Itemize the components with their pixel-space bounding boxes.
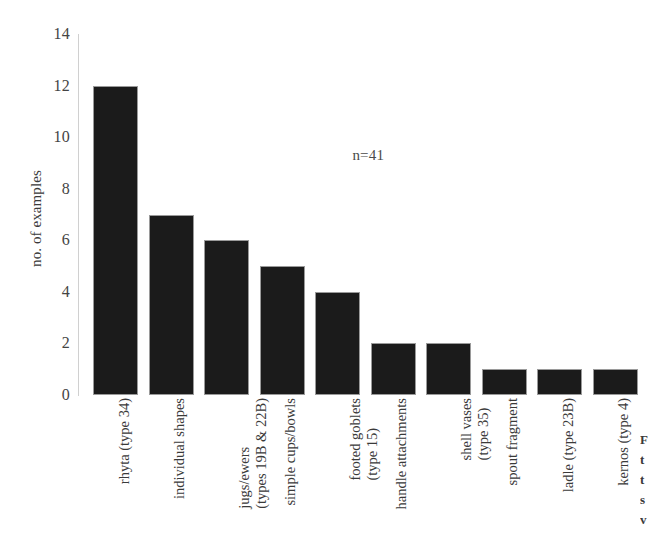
x-axis-label-6-line-1: (type 35) (475, 398, 492, 460)
bar-4 (315, 292, 360, 395)
x-axis-label-8: ladle (type 23B) (560, 398, 577, 492)
x-axis-label-0: rhyta (type 34) (116, 398, 133, 484)
cropped-caption-text: Fttsv (640, 430, 654, 530)
bar-0 (93, 86, 138, 395)
bar-7 (482, 369, 527, 395)
x-axis-label-4: footed goblets(type 15) (347, 398, 381, 481)
x-axis-label-3: simple cups/bowls (282, 398, 299, 506)
x-axis-label-5-line-0: handle attachments (393, 398, 409, 510)
y-axis-tick-4: 4 (40, 283, 70, 301)
y-axis-tick-14: 14 (40, 25, 70, 43)
cropped-caption-line-1: t (640, 450, 654, 470)
x-axis-label-7: spout fragment (504, 398, 521, 485)
y-axis-tick-10: 10 (40, 128, 70, 146)
x-axis-label-1: individual shapes (171, 398, 188, 499)
y-axis-tick-6: 6 (40, 231, 70, 249)
x-axis-label-7-line-0: spout fragment (504, 398, 520, 485)
x-axis-label-2: jugs/ewers(types 19B & 22B) (236, 398, 270, 509)
cropped-caption-line-0: F (640, 430, 654, 450)
x-axis-label-1-line-0: individual shapes (171, 398, 187, 499)
plot-area: n=41 (78, 34, 638, 395)
bar-8 (537, 369, 582, 395)
x-axis-label-4-line-0: footed goblets (347, 398, 363, 481)
bar-chart-figure: no. of examples 02468101214 n=41 rhyta (… (0, 0, 654, 557)
bar-5 (371, 343, 416, 395)
x-axis-label-6: shell vases(type 35) (458, 398, 492, 460)
cropped-caption-line-3: s (640, 490, 654, 510)
x-axis-label-8-line-0: ladle (type 23B) (560, 398, 576, 492)
annotation-sample-size: n=41 (352, 147, 384, 164)
x-axis-label-3-line-0: simple cups/bowls (282, 398, 298, 506)
bar-6 (426, 343, 471, 395)
bar-9 (593, 369, 638, 395)
bar-1 (149, 215, 194, 396)
y-axis-tick-8: 8 (40, 180, 70, 198)
y-axis-tick-0: 0 (40, 386, 70, 404)
x-axis-label-2-line-1: (types 19B & 22B) (253, 398, 270, 509)
x-axis-label-9: kernos (type 4) (615, 398, 632, 486)
bar-2 (204, 240, 249, 395)
y-axis-title: no. of examples (28, 139, 45, 299)
x-axis-label-5: handle attachments (393, 398, 410, 510)
x-axis-label-9-line-0: kernos (type 4) (615, 398, 631, 486)
x-axis-label-6-line-0: shell vases (458, 398, 474, 460)
x-axis-label-group: rhyta (type 34)individual shapesjugs/ewe… (78, 398, 638, 557)
x-axis-label-0-line-0: rhyta (type 34) (116, 398, 132, 484)
cropped-caption-line-4: v (640, 510, 654, 530)
x-axis-label-4-line-1: (type 15) (364, 398, 381, 481)
y-axis-tick-2: 2 (40, 334, 70, 352)
y-axis-tick-12: 12 (40, 77, 70, 95)
x-axis-label-2-line-0: jugs/ewers (236, 447, 252, 509)
bar-3 (260, 266, 305, 395)
cropped-caption-line-2: t (640, 470, 654, 490)
